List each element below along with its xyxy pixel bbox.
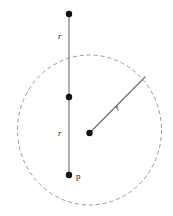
- top-point-dot: [66, 11, 72, 17]
- labels-group: rrrp: [58, 31, 122, 181]
- label-point-p: p: [76, 171, 81, 181]
- circle-center-dot: [86, 130, 92, 136]
- label-r-radius: r: [112, 103, 122, 113]
- label-r-upper: r: [58, 31, 62, 41]
- figure-canvas: rrrp: [0, 0, 173, 216]
- point-dots-group: [66, 11, 93, 178]
- geometry-diagram: rrrp: [0, 0, 173, 216]
- middle-point-dot: [66, 94, 72, 100]
- radius-line: [90, 77, 146, 133]
- bottom-point-p-dot: [66, 172, 72, 178]
- label-r-lower: r: [58, 128, 62, 138]
